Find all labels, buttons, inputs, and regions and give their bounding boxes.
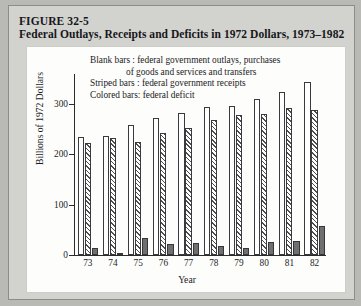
bar-colored-79: [243, 248, 249, 255]
bar-colored-80: [268, 242, 274, 255]
bar-colored-75: [142, 238, 148, 255]
x-axis-line: [74, 255, 326, 256]
bar-striped-77: [185, 128, 191, 255]
x-tick-label: 82: [310, 258, 319, 268]
bar-group: [78, 74, 98, 255]
bar-blank-78: [204, 107, 210, 255]
x-tick-label: 77: [184, 258, 193, 268]
bar-colored-76: [167, 244, 173, 255]
plot-area: 0100200300 73747576777879808182: [74, 74, 326, 256]
bar-group: [153, 74, 173, 255]
bar-colored-81: [293, 241, 299, 255]
y-tick-label: 300: [54, 99, 68, 109]
bar-blank-82: [304, 82, 310, 255]
bar-group: [204, 74, 224, 255]
figure-header: FIGURE 32-5 Federal Outlays, Receipts an…: [19, 15, 344, 41]
x-tick-label: 78: [209, 258, 218, 268]
bar-group: [254, 74, 274, 255]
bar-striped-74: [110, 138, 116, 255]
bar-striped-73: [85, 143, 91, 255]
bar-striped-79: [236, 115, 242, 255]
bar-group: [178, 74, 198, 255]
bar-colored-74: [117, 253, 123, 255]
y-axis-label: Billions of 1972 Dollars: [34, 72, 45, 165]
x-tick-label: 79: [234, 258, 243, 268]
bar-group: [304, 74, 324, 255]
x-tick-label: 73: [83, 258, 92, 268]
bar-group: [128, 74, 148, 255]
bar-striped-81: [286, 108, 292, 255]
x-tick-label: 75: [134, 258, 143, 268]
bar-colored-78: [218, 246, 224, 255]
bar-group: [229, 74, 249, 255]
x-tick-label: 80: [260, 258, 269, 268]
legend-key-blank: Blank bars :: [90, 55, 135, 65]
figure-number: FIGURE 32-5: [19, 15, 344, 28]
bar-colored-82: [319, 226, 325, 255]
bar-blank-76: [153, 118, 159, 255]
bar-group: [279, 74, 299, 255]
chart-panel: Blank bars : federal government outlays,…: [26, 46, 346, 293]
bar-blank-74: [103, 136, 109, 255]
figure-title: Federal Outlays, Receipts and Deficits i…: [19, 28, 344, 41]
bar-colored-77: [193, 243, 199, 255]
y-tick-label: 0: [63, 250, 68, 260]
bar-groups: [74, 74, 326, 255]
legend-row-blank: Blank bars : federal government outlays,…: [90, 55, 280, 67]
bar-striped-80: [261, 114, 267, 255]
bar-striped-75: [135, 142, 141, 255]
bar-group: [103, 74, 123, 255]
x-tick-label: 81: [285, 258, 294, 268]
bar-blank-75: [128, 125, 134, 255]
figure-card: FIGURE 32-5 Federal Outlays, Receipts an…: [8, 5, 355, 300]
y-tick-label: 100: [54, 200, 68, 210]
bar-blank-77: [178, 113, 184, 255]
bar-blank-81: [279, 92, 285, 255]
y-tick: [69, 255, 74, 256]
bar-blank-79: [229, 106, 235, 255]
x-tick-label: 74: [108, 258, 117, 268]
bar-striped-76: [160, 133, 166, 255]
legend-text-blank: federal government outlays, purchases: [137, 55, 280, 65]
y-tick-label: 200: [54, 149, 68, 159]
bar-striped-82: [311, 110, 317, 255]
bar-striped-78: [211, 120, 217, 255]
bar-blank-80: [254, 99, 260, 255]
x-axis-label: Year: [27, 274, 347, 285]
bar-blank-73: [78, 137, 84, 255]
x-tick-label: 76: [159, 258, 168, 268]
bar-colored-73: [92, 248, 98, 255]
